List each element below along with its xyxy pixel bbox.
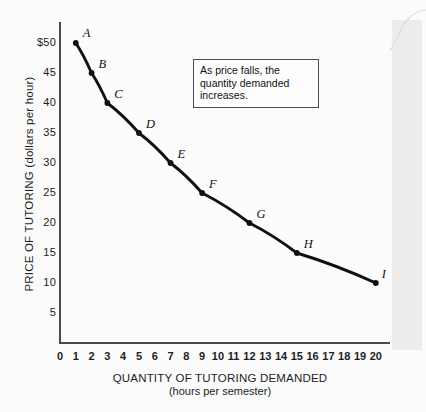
- data-point-marker-c: [104, 100, 110, 106]
- data-point-marker-g: [247, 220, 253, 226]
- data-point-marker-h: [294, 250, 300, 256]
- data-point-label-f: F: [209, 177, 217, 192]
- demand-curve-line: [76, 43, 376, 283]
- chart-figure: 51015202530354045$50 0123456789101112131…: [0, 0, 426, 412]
- data-point-label-a: A: [83, 26, 91, 41]
- data-point-label-d: D: [146, 117, 155, 132]
- data-point-label-i: I: [382, 267, 386, 282]
- data-point-label-g: G: [256, 207, 265, 222]
- data-point-marker-i: [373, 280, 379, 286]
- data-point-label-e: E: [178, 147, 186, 162]
- data-point-marker-f: [199, 190, 205, 196]
- data-point-marker-b: [89, 70, 95, 76]
- data-point-marker-e: [168, 160, 174, 166]
- demand-curve-svg: [0, 0, 426, 412]
- data-point-marker-a: [73, 40, 79, 46]
- data-point-marker-d: [136, 130, 142, 136]
- data-point-label-c: C: [114, 87, 122, 102]
- data-point-label-b: B: [99, 57, 107, 72]
- data-point-label-h: H: [304, 237, 313, 252]
